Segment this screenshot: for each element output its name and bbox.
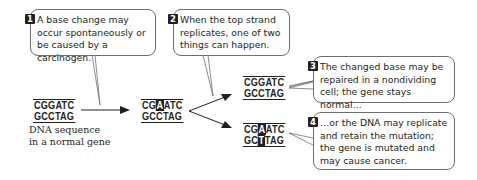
changed-base: A	[156, 100, 164, 111]
step-badge: 4	[308, 117, 318, 127]
callout-2: 2 When the top strand replicates, one of…	[173, 9, 290, 56]
dna-normal: CGGATC GCCTAG	[33, 99, 75, 123]
arrow-head-icon	[120, 106, 130, 114]
callout-text: When the top strand replicates, one of t…	[180, 14, 280, 50]
bases: GC	[244, 135, 258, 146]
bottom-strand: GCCTAG	[243, 88, 285, 100]
bases: ATC	[164, 100, 183, 111]
bottom-strand: GCCTAG	[33, 111, 75, 123]
step-badge: 2	[168, 14, 178, 24]
top-strand: CGGATC	[243, 76, 285, 88]
dna-changed: CGAATC GCCTAG	[141, 99, 184, 123]
top-strand: CGGATC	[33, 99, 75, 111]
callout-3: 3 The changed base may be repaired in a …	[313, 56, 455, 103]
callout-text: …or the DNA may replicate and retain the…	[320, 117, 447, 166]
top-strand: CGAATC	[141, 99, 184, 111]
dna-mutated: CGAATC GCTTAG	[243, 123, 286, 147]
bases: CG	[244, 124, 258, 135]
caption-line: in a normal gene	[29, 136, 110, 148]
callout-4: 4 …or the DNA may replicate and retain t…	[313, 112, 455, 170]
dna-caption: DNA sequence in a normal gene	[29, 124, 110, 148]
caption-line: DNA sequence	[29, 124, 110, 136]
bases: TAG	[265, 135, 284, 146]
mutated-base: T	[258, 135, 265, 146]
bases: ATC	[266, 124, 285, 135]
callout-text: The changed base may be repaired in a no…	[320, 61, 443, 110]
step-badge: 1	[25, 14, 35, 24]
dna-repaired: CGGATC GCCTAG	[243, 76, 285, 100]
top-strand: CGAATC	[243, 123, 286, 135]
bottom-strand: GCCTAG	[141, 111, 184, 123]
changed-base: A	[258, 124, 266, 135]
bottom-strand: GCTTAG	[243, 135, 286, 147]
callout-text: A base change may occur spontaneously or…	[37, 14, 146, 63]
callout-1: 1 A base change may occur spontaneously …	[30, 9, 156, 56]
bases: CG	[142, 100, 156, 111]
step-badge: 3	[308, 61, 318, 71]
